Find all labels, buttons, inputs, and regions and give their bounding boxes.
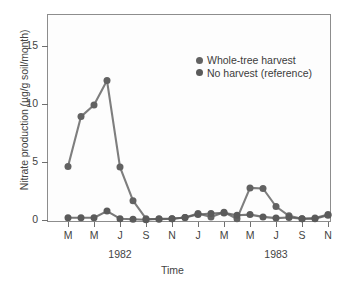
y-tick-mark bbox=[42, 46, 48, 47]
x-axis-title: Time bbox=[0, 264, 345, 276]
x-tick-mark bbox=[94, 222, 95, 227]
legend-marker-icon bbox=[196, 69, 203, 76]
x-tick-label: M bbox=[59, 229, 77, 241]
y-tick-label: 0 bbox=[16, 213, 38, 225]
x-tick-label: N bbox=[319, 229, 337, 241]
legend: Whole-tree harvest No harvest (reference… bbox=[196, 54, 312, 79]
nitrate-production-chart: Nitrate production (µg/g soil/month) 15 … bbox=[0, 0, 345, 286]
x-tick-label: J bbox=[111, 229, 129, 241]
x-group-label-1983: 1983 bbox=[256, 248, 296, 260]
x-tick-label: M bbox=[241, 229, 259, 241]
x-tick-mark bbox=[120, 222, 121, 227]
y-tick-label: 5 bbox=[16, 155, 38, 167]
x-tick-mark bbox=[198, 222, 199, 227]
x-tick-label: S bbox=[293, 229, 311, 241]
x-tick-label: N bbox=[163, 229, 181, 241]
x-tick-mark bbox=[224, 222, 225, 227]
x-tick-label: J bbox=[267, 229, 285, 241]
x-tick-mark bbox=[146, 222, 147, 227]
y-tick-label: 10 bbox=[16, 97, 38, 109]
legend-label: Whole-tree harvest bbox=[207, 54, 296, 67]
legend-item-no-harvest: No harvest (reference) bbox=[196, 67, 312, 80]
x-tick-mark bbox=[328, 222, 329, 227]
x-tick-label: M bbox=[215, 229, 233, 241]
x-tick-label: M bbox=[85, 229, 103, 241]
x-tick-mark bbox=[250, 222, 251, 227]
legend-item-whole-tree-harvest: Whole-tree harvest bbox=[196, 54, 312, 67]
x-tick-mark bbox=[302, 222, 303, 227]
plot-area bbox=[47, 14, 331, 222]
x-group-label-1982: 1982 bbox=[100, 248, 140, 260]
y-tick-label: 15 bbox=[16, 39, 38, 51]
x-tick-mark bbox=[172, 222, 173, 227]
y-tick-mark bbox=[42, 220, 48, 221]
legend-label: No harvest (reference) bbox=[207, 67, 312, 80]
x-tick-label: J bbox=[189, 229, 207, 241]
legend-marker-icon bbox=[196, 57, 203, 64]
x-tick-mark bbox=[68, 222, 69, 227]
x-tick-label: S bbox=[137, 229, 155, 241]
x-tick-mark bbox=[276, 222, 277, 227]
y-tick-mark bbox=[42, 104, 48, 105]
y-tick-mark bbox=[42, 162, 48, 163]
